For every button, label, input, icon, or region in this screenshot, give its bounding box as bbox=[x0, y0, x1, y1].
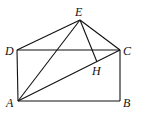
label-D: D bbox=[4, 44, 14, 58]
label-B: B bbox=[123, 96, 131, 110]
segment-AC bbox=[18, 50, 120, 101]
segment-DA bbox=[17, 50, 18, 101]
geometry-diagram: A B C D E H bbox=[0, 0, 141, 117]
label-A: A bbox=[5, 96, 14, 110]
label-C: C bbox=[123, 44, 132, 58]
segment-DE bbox=[17, 20, 80, 50]
label-H: H bbox=[91, 64, 102, 78]
segment-AE bbox=[18, 20, 80, 101]
label-E: E bbox=[74, 5, 83, 19]
